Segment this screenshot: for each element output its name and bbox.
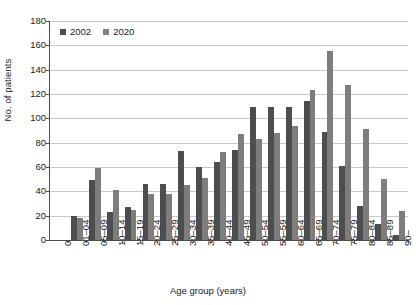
bar-group [301,21,319,240]
x-tick-mark [372,240,373,243]
bar-group [68,21,86,240]
y-tick-label: 120 [18,89,46,99]
y-axis-line [49,21,50,241]
bar-group [104,21,122,240]
x-tick-mark [354,240,355,243]
y-tick-label: 80 [18,138,46,148]
bar-group [319,21,337,240]
legend-item-2002: 2002 [60,27,91,37]
x-tick-label: 90– [403,230,413,246]
y-tick-label: 140 [18,65,46,75]
bar-group [175,21,193,240]
bar-group [265,21,283,240]
x-tick-mark [283,240,284,243]
y-tick-label: 160 [18,40,46,50]
y-tick-mark [46,70,49,71]
y-tick-mark [46,21,49,22]
y-tick-mark [46,167,49,168]
x-tick-mark [211,240,212,243]
legend-item-2020: 2020 [103,27,134,37]
y-tick-mark [46,45,49,46]
bar-group [193,21,211,240]
x-tick-mark [104,240,105,243]
y-tick-label: 180 [18,16,46,26]
bar-group [372,21,390,240]
y-tick-mark [46,143,49,144]
x-tick-mark [301,240,302,243]
legend-swatch-icon [60,29,66,35]
legend-label: 2002 [70,27,91,37]
bar-group [157,21,175,240]
bar-2020-70-74 [327,51,333,240]
y-tick-label: 0 [18,235,46,245]
bar-chart: No. of patients 020406080100120140160180… [0,0,416,305]
bar-group [336,21,354,240]
x-tick-mark [390,240,391,243]
x-tick-mark [247,240,248,243]
bar-group [247,21,265,240]
legend-swatch-icon [103,29,109,35]
bar-2020-65-69 [310,90,316,240]
y-tick-label: 40 [18,186,46,196]
legend: 20022020 [60,27,134,37]
bar-group [229,21,247,240]
y-tick-mark [46,216,49,217]
x-tick-mark [193,240,194,243]
x-tick-mark [122,240,123,243]
y-axis-tick-labels: 020406080100120140160180 [12,0,46,305]
x-tick-mark [68,240,69,243]
x-axis-title: Age group (years) [0,285,416,296]
x-tick-mark [229,240,230,243]
bar-group [140,21,158,240]
bar-group [283,21,301,240]
x-tick-mark [140,240,141,243]
bar-group [211,21,229,240]
y-tick-label: 20 [18,211,46,221]
plot-area [50,21,408,240]
x-tick-mark [318,240,319,243]
y-tick-mark [46,191,49,192]
bar-group [122,21,140,240]
bar-group [390,21,408,240]
x-tick-mark [175,240,176,243]
x-tick-mark [408,240,409,243]
legend-label: 2020 [113,27,134,37]
x-tick-mark [336,240,337,243]
y-tick-mark [46,118,49,119]
y-tick-label: 60 [18,162,46,172]
y-tick-mark [46,94,49,95]
x-tick-mark [86,240,87,243]
x-tick-mark [157,240,158,243]
x-tick-mark [265,240,266,243]
bar-group [354,21,372,240]
y-tick-mark [46,240,49,241]
y-tick-label: 100 [18,113,46,123]
bar-group [86,21,104,240]
bar-2020-75-79 [345,85,351,240]
